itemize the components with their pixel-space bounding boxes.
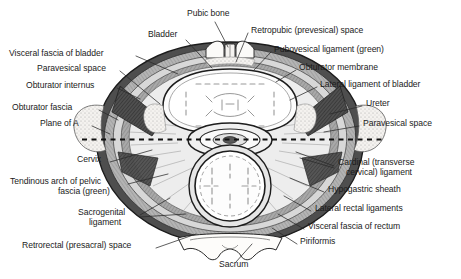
label-ureter: Ureter bbox=[366, 98, 390, 108]
label-obturator-membrane: Obturator membrane bbox=[299, 62, 378, 72]
label-sacrogenital-line2: ligament bbox=[89, 217, 121, 227]
label-plane-of-a: Plane of A bbox=[40, 118, 79, 128]
label-tendinous-arch-line1: Tendinous arch of pelvic bbox=[10, 176, 101, 186]
label-retropubic-space: Retropubic (prevesical) space bbox=[251, 25, 363, 35]
label-paravesical-space-left: Paravesical space bbox=[37, 63, 106, 73]
sacrum bbox=[178, 234, 282, 260]
label-sacrogenital-line1: Sacrogenital bbox=[78, 207, 125, 217]
label-pubovesical-ligament: Pubovesical ligament (green) bbox=[274, 44, 384, 54]
label-cardinal-ligament-line2: cervical) ligament bbox=[346, 167, 412, 177]
figure-page: Pubic bone Bladder Visceral fascia of bl… bbox=[0, 0, 461, 279]
label-sacrum: Sacrum bbox=[219, 259, 248, 269]
label-cervix: Cervix bbox=[77, 154, 101, 164]
label-tendinous-arch-line2: fascia (green) bbox=[58, 186, 110, 196]
label-retrorectal-space: Retrorectal (presacral) space bbox=[22, 240, 131, 250]
label-obturator-fascia: Obturator fascia bbox=[12, 102, 72, 112]
pelvis-cross-section-illustration bbox=[0, 0, 461, 279]
label-visceral-fascia-of-rectum: Visceral fascia of rectum bbox=[308, 221, 400, 231]
pubic-bone bbox=[206, 41, 254, 59]
label-lateral-ligament-of-bladder: Lateral ligament of bladder bbox=[320, 79, 420, 89]
label-obturator-internus: Obturator internus bbox=[26, 80, 94, 90]
label-paravesical-space-right: Paravesical space bbox=[363, 118, 432, 128]
label-hypogastric-sheath: Hypogastric sheath bbox=[328, 184, 401, 194]
label-bladder: Bladder bbox=[148, 29, 177, 39]
label-visceral-fascia-of-bladder: Visceral fascia of bladder bbox=[9, 48, 104, 58]
label-lateral-rectal-ligaments: Lateral rectal ligaments bbox=[315, 203, 403, 213]
label-cardinal-ligament-line1: Cardinal (transverse bbox=[338, 157, 414, 167]
rectum bbox=[189, 145, 271, 227]
label-pubic-bone: Pubic bone bbox=[187, 8, 230, 18]
label-piriformis: Piriformis bbox=[300, 236, 335, 246]
